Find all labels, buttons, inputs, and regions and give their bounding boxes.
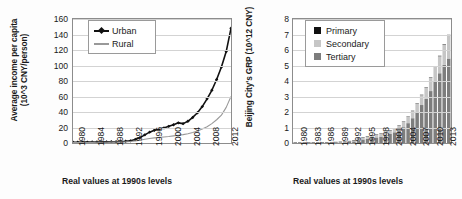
y-tick-label: 100 [54,61,68,71]
bar-segment-secondary [415,104,419,112]
y-tick-label: 60 [58,92,68,102]
x-tick-label: 1984 [96,127,106,146]
x-tick-label: 1980 [77,127,87,146]
legend-label-urban: Urban [112,26,137,36]
legend-item-rural[interactable]: Rural [94,37,150,50]
urban-line-icon [94,25,109,36]
x-tick-label: 2000 [173,127,183,146]
x-tick-label: 1996 [154,127,164,146]
legend-item-secondary[interactable]: Secondary [311,37,379,50]
caption-left: Real values at 1990s levels [22,176,212,186]
x-tick-label: 2004 [408,127,418,146]
gridline [293,97,451,98]
x-tick-label: 1988 [115,127,125,146]
y-tick-label: 6 [284,45,289,55]
legend-left: Urban Rural [88,20,156,54]
gridline [293,81,451,82]
x-tick-label: 2001 [394,127,404,146]
bar-segment-secondary [429,78,433,91]
bar-segment-secondary [406,117,410,123]
y-tick-label: 80 [58,76,68,86]
y-axis-title-left: Average income per capita(10^3 CNY/perso… [9,5,29,135]
y-tick-label: 4 [284,76,289,86]
y-axis-title-right: Beijing City's GRP (10^12 CNY) [244,2,254,132]
y-axis-ticks-left: 020406080100120140160 [44,18,68,142]
caption-right: Real values at 1990s levels [253,176,443,186]
secondary-swatch-icon [314,40,321,47]
y-tick-label: 5 [284,61,289,71]
legend-label-secondary: Secondary [326,39,369,49]
x-tick-label: 1998 [381,127,391,146]
legend-item-primary[interactable]: Primary [311,24,379,37]
x-tick-label: 1989 [340,127,350,146]
x-tick-label: 2008 [211,127,221,146]
x-tick-label: 1980 [299,127,309,146]
y-tick-label: 140 [54,30,68,40]
y-tick-label: 0 [63,138,68,148]
y-tick-label: 7 [284,30,289,40]
gridline [73,112,231,113]
y-tick-label: 3 [284,92,289,102]
x-tick-label: 1992 [134,127,144,146]
x-tick-label: 2013 [448,127,458,146]
rural-line-icon [94,38,109,49]
legend-label-rural: Rural [112,39,134,49]
legend-label-tertiary: Tertiary [326,52,356,62]
primary-swatch-icon [314,27,321,34]
legend-item-tertiary[interactable]: Tertiary [311,50,379,63]
gridline [73,97,231,98]
legend-item-urban[interactable]: Urban [94,24,150,37]
y-axis-title-left-line2: (10^3 CNY/person) [19,34,29,106]
y-tick-label: 8 [284,14,289,24]
chart-panel-beijing-grp: Beijing City's GRP (10^12 CNY) 012345678… [231,0,462,199]
gridline [293,112,451,113]
y-tick-label: 2 [284,107,289,117]
legend-right: Primary Secondary Tertiary [305,20,385,67]
y-tick-label: 160 [54,14,68,24]
y-axis-title-left-line1: Average income per capita [9,19,19,122]
bar-segment-secondary [433,67,437,82]
y-axis-ticks-right: 012345678 [265,18,289,142]
x-tick-label: 1992 [353,127,363,146]
figure-container: Average income per capita(10^3 CNY/perso… [0,0,462,199]
gridline [73,81,231,82]
x-tick-label: 2004 [192,127,202,146]
y-tick-label: 1 [284,123,289,133]
y-tick-label: 120 [54,45,68,55]
x-tick-label: 2010 [435,127,445,146]
tertiary-swatch-icon [314,53,321,60]
bar-segment-secondary [447,35,451,58]
y-tick-label: 0 [284,138,289,148]
chart-panel-average-income: Average income per capita(10^3 CNY/perso… [0,0,231,199]
bar-segment-secondary [442,45,446,65]
legend-label-primary: Primary [326,26,357,36]
x-tick-label: 2007 [421,127,431,146]
x-tick-label: 1983 [313,127,323,146]
gridline [73,66,231,67]
x-tick-label: 1986 [326,127,336,146]
y-tick-label: 40 [58,107,68,117]
y-tick-label: 20 [58,123,68,133]
x-tick-label: 1995 [367,127,377,146]
